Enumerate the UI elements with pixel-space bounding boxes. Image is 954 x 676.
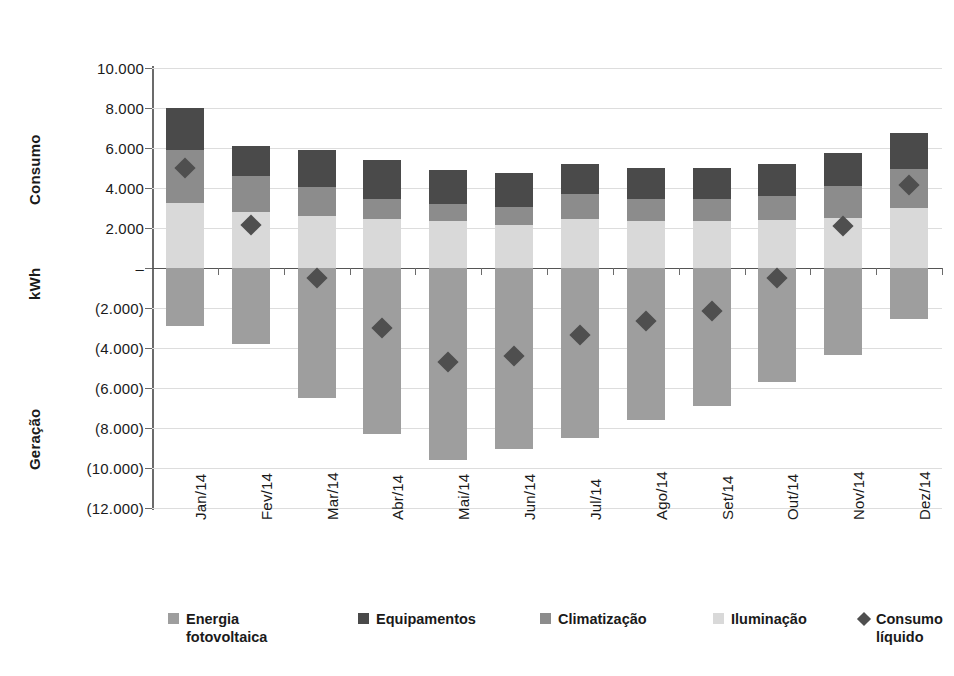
bar-column[interactable] xyxy=(627,68,665,508)
bar-segment[interactable] xyxy=(363,199,401,219)
y-tick-label: (2.000) xyxy=(52,300,144,317)
bar-segment[interactable] xyxy=(363,219,401,268)
bar-column[interactable] xyxy=(758,68,796,508)
bar-segment[interactable] xyxy=(166,268,204,326)
legend-label: Equipamentos xyxy=(376,610,476,628)
bar-column[interactable] xyxy=(824,68,862,508)
y-tick-mark xyxy=(145,68,152,69)
bar-segment[interactable] xyxy=(495,207,533,225)
bar-segment[interactable] xyxy=(166,108,204,150)
bar-segment[interactable] xyxy=(363,160,401,199)
legend-item[interactable]: Climatização xyxy=(540,610,647,628)
bar-segment[interactable] xyxy=(693,221,731,268)
x-tick-mark xyxy=(613,268,614,275)
bar-segment[interactable] xyxy=(890,133,928,169)
x-axis-label: Ago/14 xyxy=(653,471,670,520)
legend-item[interactable]: Energia fotovoltaica xyxy=(168,610,291,646)
x-axis-label: Mai/14 xyxy=(455,474,472,520)
bar-segment[interactable] xyxy=(561,194,599,219)
legend-item[interactable]: Equipamentos xyxy=(358,610,476,628)
x-axis-label: Dez/14 xyxy=(916,471,933,520)
y-tick-mark xyxy=(145,468,152,469)
bar-segment[interactable] xyxy=(298,187,336,216)
bar-segment[interactable] xyxy=(363,268,401,434)
y-tick-label: – xyxy=(52,260,144,277)
y-tick-mark xyxy=(145,508,152,509)
bar-segment[interactable] xyxy=(693,268,731,406)
bar-segment[interactable] xyxy=(232,268,270,344)
x-tick-mark xyxy=(942,268,943,275)
bar-segment[interactable] xyxy=(495,225,533,268)
x-tick-mark xyxy=(481,268,482,275)
y-tick-label: 10.000 xyxy=(52,60,144,77)
bar-segment[interactable] xyxy=(429,204,467,221)
legend-swatch-equipamentos xyxy=(358,613,369,624)
bar-segment[interactable] xyxy=(758,164,796,196)
legend-label: Climatização xyxy=(558,610,647,628)
y-tick-label: (12.000) xyxy=(52,500,144,517)
bar-segment[interactable] xyxy=(758,220,796,268)
legend-swatch-energia-fotovoltaica xyxy=(168,613,179,624)
bar-segment[interactable] xyxy=(561,219,599,268)
x-tick-mark xyxy=(350,268,351,275)
legend-label: Energia fotovoltaica xyxy=(186,610,291,646)
bar-segment[interactable] xyxy=(890,208,928,268)
bar-segment[interactable] xyxy=(693,168,731,199)
y-tick-mark xyxy=(145,428,152,429)
bar-segment[interactable] xyxy=(298,216,336,268)
y-tick-label: 4.000 xyxy=(52,180,144,197)
bar-segment[interactable] xyxy=(561,164,599,194)
y-tick-mark xyxy=(145,268,152,269)
legend-item[interactable]: Iluminação xyxy=(713,610,807,628)
bar-segment[interactable] xyxy=(627,268,665,420)
bar-segment[interactable] xyxy=(758,196,796,220)
x-axis-label: Fev/14 xyxy=(258,473,275,520)
x-tick-mark xyxy=(876,268,877,275)
bar-column[interactable] xyxy=(693,68,731,508)
bar-segment[interactable] xyxy=(429,221,467,268)
legend-item[interactable]: Consumo líquido xyxy=(858,610,943,646)
bar-segment[interactable] xyxy=(890,268,928,319)
bar-segment[interactable] xyxy=(495,173,533,207)
bar-column[interactable] xyxy=(890,68,928,508)
bar-segment[interactable] xyxy=(824,153,862,186)
bar-segment[interactable] xyxy=(232,146,270,176)
legend-swatch-iluminacao xyxy=(713,613,724,624)
axis-unit-label-kwh: kWh xyxy=(26,268,43,300)
bar-segment[interactable] xyxy=(627,168,665,199)
bar-column[interactable] xyxy=(429,68,467,508)
bar-segment[interactable] xyxy=(627,199,665,221)
bar-column[interactable] xyxy=(495,68,533,508)
legend-swatch-climatizacao xyxy=(540,613,551,624)
axis-group-label-geracao: Geração xyxy=(26,409,43,470)
x-axis-label: Nov/14 xyxy=(850,471,867,520)
bar-segment[interactable] xyxy=(627,221,665,268)
bar-segment[interactable] xyxy=(298,150,336,187)
x-tick-mark xyxy=(547,268,548,275)
bar-segment[interactable] xyxy=(693,199,731,221)
x-tick-mark xyxy=(284,268,285,275)
y-tick-label: (10.000) xyxy=(52,460,144,477)
bar-column[interactable] xyxy=(232,68,270,508)
x-tick-mark xyxy=(745,268,746,275)
x-tick-mark xyxy=(679,268,680,275)
legend-label: Iluminação xyxy=(731,610,807,628)
y-tick-label: 2.000 xyxy=(52,220,144,237)
bar-column[interactable] xyxy=(561,68,599,508)
bar-segment[interactable] xyxy=(429,170,467,204)
bar-segment[interactable] xyxy=(824,268,862,355)
y-tick-label: (6.000) xyxy=(52,380,144,397)
bar-segment[interactable] xyxy=(166,203,204,268)
bar-segment[interactable] xyxy=(824,186,862,218)
y-axis-tick-labels: 10.0008.0006.0004.0002.000–(2.000)(4.000… xyxy=(52,0,144,676)
x-axis-label: Out/14 xyxy=(784,474,801,520)
energy-balance-chart: Consumo kWh Geração 10.0008.0006.0004.00… xyxy=(0,0,954,676)
x-tick-mark xyxy=(218,268,219,275)
axis-group-label-consumo: Consumo xyxy=(26,134,43,205)
bar-column[interactable] xyxy=(363,68,401,508)
bar-column[interactable] xyxy=(298,68,336,508)
bar-segment[interactable] xyxy=(561,268,599,438)
y-tick-mark xyxy=(145,308,152,309)
bar-column[interactable] xyxy=(166,68,204,508)
bar-segment[interactable] xyxy=(232,176,270,212)
